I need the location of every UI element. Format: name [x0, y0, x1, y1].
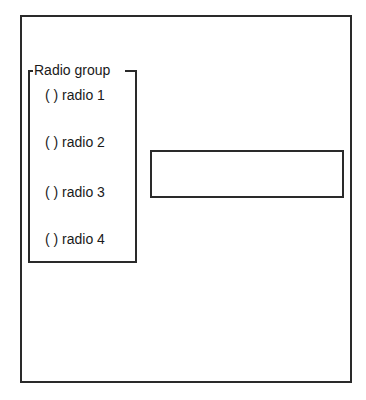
- group-border-top-right: [125, 70, 135, 72]
- radio-option-3[interactable]: ( ) radio 3: [45, 184, 105, 200]
- radio-option-1[interactable]: ( ) radio 1: [45, 87, 105, 103]
- radio-option-2[interactable]: ( ) radio 2: [45, 134, 105, 150]
- radio-option-4[interactable]: ( ) radio 4: [45, 231, 105, 247]
- radio-group-title: Radio group: [33, 62, 111, 78]
- text-box[interactable]: [150, 150, 344, 198]
